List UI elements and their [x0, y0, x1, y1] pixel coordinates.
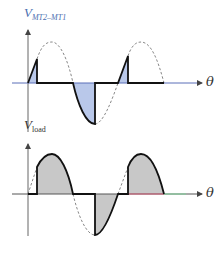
bottom-x-axis-label: θ [206, 185, 214, 200]
top-waveform [28, 56, 164, 124]
top-x-axis-label: θ [206, 74, 214, 89]
bottom-plot [12, 144, 202, 236]
top-y-axis-label: VMT2–MT1 [24, 5, 66, 22]
bottom-shade-2 [95, 194, 118, 235]
top-shade-2 [73, 83, 95, 124]
bottom-y-axis-label: Vload [24, 117, 46, 134]
